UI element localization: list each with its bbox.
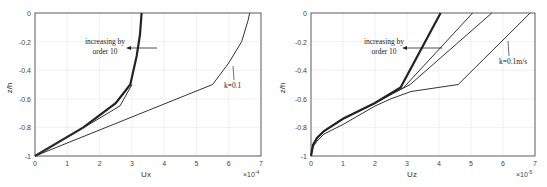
svg-text:1: 1 bbox=[65, 160, 69, 167]
right-curve-3 bbox=[311, 13, 473, 156]
svg-text:0: 0 bbox=[309, 160, 313, 167]
left-chart: increasing by order 10 k=0.1 0 -0.2 -0.4… bbox=[5, 10, 263, 179]
svg-text:3: 3 bbox=[130, 160, 134, 167]
left-annotation-line2: order 10 bbox=[92, 47, 117, 56]
right-chart: increasing by order 10 k=0.1m/s 0 -0.2 -… bbox=[278, 10, 537, 179]
left-y-ticks: 0 -0.2 -0.4 -0.6 -0.8 -1 bbox=[19, 10, 31, 160]
right-curve-bundle bbox=[311, 13, 441, 156]
svg-text:-0.4: -0.4 bbox=[295, 67, 307, 74]
svg-text:-0.2: -0.2 bbox=[295, 39, 307, 46]
svg-text:-0.8: -0.8 bbox=[295, 124, 307, 131]
svg-text:2: 2 bbox=[98, 160, 102, 167]
right-annotation-line1: increasing by bbox=[364, 37, 404, 46]
right-arrowhead-icon bbox=[402, 46, 407, 50]
svg-text:6: 6 bbox=[227, 160, 231, 167]
svg-text:0: 0 bbox=[303, 10, 307, 17]
svg-text:7: 7 bbox=[259, 160, 263, 167]
svg-text:-0.6: -0.6 bbox=[295, 96, 307, 103]
svg-text:-0.4: -0.4 bbox=[19, 67, 31, 74]
figure: increasing by order 10 k=0.1 0 -0.2 -0.4… bbox=[0, 0, 547, 187]
left-y-label: z/h bbox=[5, 83, 14, 94]
svg-text:3: 3 bbox=[405, 160, 409, 167]
left-x-multiplier: ×10-4 bbox=[243, 169, 260, 178]
left-arrowhead-icon bbox=[126, 46, 131, 50]
svg-text:-1: -1 bbox=[301, 153, 307, 160]
svg-text:5: 5 bbox=[469, 160, 473, 167]
right-grid bbox=[311, 13, 535, 156]
right-annotation-line2: order 10 bbox=[371, 47, 396, 56]
svg-text:2: 2 bbox=[373, 160, 377, 167]
right-x-ticks: 0 1 2 3 4 5 6 7 bbox=[309, 160, 537, 167]
svg-text:-0.2: -0.2 bbox=[19, 39, 31, 46]
left-k-leader bbox=[233, 66, 234, 80]
svg-text:-1: -1 bbox=[25, 153, 31, 160]
left-annotation-line1: increasing by bbox=[85, 37, 125, 46]
svg-text:4: 4 bbox=[162, 160, 166, 167]
right-k-label: k=0.1m/s bbox=[499, 57, 527, 66]
svg-text:6: 6 bbox=[501, 160, 505, 167]
right-x-label: Uz bbox=[407, 170, 417, 179]
right-y-label: z/h bbox=[278, 83, 287, 94]
svg-text:-0.8: -0.8 bbox=[19, 124, 31, 131]
svg-text:5: 5 bbox=[194, 160, 198, 167]
svg-text:-0.6: -0.6 bbox=[19, 96, 31, 103]
left-k-label: k=0.1 bbox=[224, 81, 242, 90]
left-x-label: Ux bbox=[141, 170, 151, 179]
right-y-ticks: 0 -0.2 -0.4 -0.6 -0.8 -1 bbox=[295, 10, 307, 160]
left-curve-bundle-lower bbox=[35, 85, 132, 157]
right-x-multiplier: ×10-5 bbox=[516, 169, 533, 178]
svg-text:1: 1 bbox=[341, 160, 345, 167]
svg-text:7: 7 bbox=[533, 160, 537, 167]
right-axes-frame bbox=[311, 13, 535, 156]
svg-text:4: 4 bbox=[437, 160, 441, 167]
left-x-ticks: 0 1 2 3 4 5 6 7 bbox=[33, 160, 263, 167]
right-k-leader bbox=[508, 41, 509, 56]
right-curve-k01 bbox=[311, 13, 530, 156]
svg-text:0: 0 bbox=[27, 10, 31, 17]
svg-text:0: 0 bbox=[33, 160, 37, 167]
